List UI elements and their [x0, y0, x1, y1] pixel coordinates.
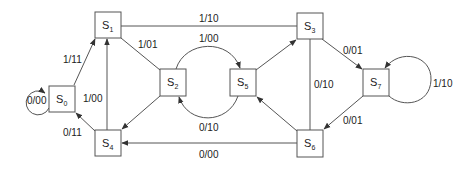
svg-text:S: S — [102, 137, 109, 149]
edge-label-s7-s7: 1/10 — [433, 78, 453, 89]
edge-s2-s4 — [122, 96, 160, 129]
edge-label-s5-s2: 0/10 — [199, 122, 219, 133]
edge-label-s7-s6: 0/01 — [343, 115, 363, 126]
state-s3: S 3 — [297, 13, 323, 39]
svg-text:S: S — [102, 19, 109, 31]
edge-label-s4-s0: 0/11 — [63, 127, 82, 138]
edge-label-s6-s3: 0/10 — [314, 79, 334, 90]
svg-text:4: 4 — [110, 144, 114, 151]
svg-text:S: S — [304, 20, 311, 32]
svg-text:6: 6 — [312, 144, 316, 151]
svg-text:S: S — [167, 76, 174, 88]
edge-label-s1-s3: 1/10 — [199, 13, 219, 24]
svg-text:S: S — [56, 93, 63, 105]
edge-label-s4-s1: 1/00 — [83, 93, 103, 104]
svg-text:2: 2 — [175, 83, 179, 90]
edge-label-s0-s0: 0/00 — [27, 95, 47, 106]
edge-label-s2-s5: 1/00 — [199, 33, 219, 44]
state-s1: S 1 — [95, 12, 121, 38]
svg-text:S: S — [304, 137, 311, 149]
state-s7: S 7 — [363, 69, 389, 96]
svg-text:3: 3 — [312, 27, 316, 34]
svg-text:5: 5 — [245, 83, 249, 90]
state-s5: S 5 — [230, 69, 256, 96]
svg-text:S: S — [237, 76, 244, 88]
state-s2: S 2 — [160, 69, 186, 96]
edge-label-s3-s7: 0/01 — [343, 45, 363, 56]
edge-label-s1-s2: 1/01 — [138, 39, 158, 50]
svg-text:0: 0 — [64, 100, 68, 107]
edge-s5-s2 — [179, 96, 238, 118]
state-s6: S 6 — [297, 130, 323, 157]
state-s4: S 4 — [95, 130, 121, 156]
state-s0: S 0 — [49, 86, 75, 112]
state-diagram: 0/00 1/11 0/11 1/00 1/10 1/01 1/00 0/10 … — [0, 0, 473, 169]
edge-s7-s7 — [385, 56, 431, 102]
edge-label-s6-s4: 0/00 — [199, 149, 219, 160]
svg-text:7: 7 — [378, 83, 382, 90]
edge-s5-s3 — [256, 40, 296, 70]
edge-s2-s5 — [176, 46, 240, 69]
svg-text:1: 1 — [110, 26, 114, 33]
edge-s6-s5 — [257, 97, 297, 131]
edge-label-s0-s1: 1/11 — [63, 54, 82, 65]
svg-text:S: S — [370, 76, 377, 88]
